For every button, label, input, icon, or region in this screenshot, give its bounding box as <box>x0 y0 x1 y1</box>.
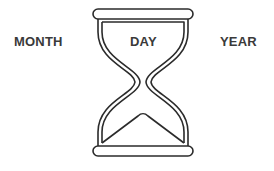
day-label: DAY <box>130 34 157 49</box>
year-label: YEAR <box>220 34 257 49</box>
hourglass-icon <box>0 0 274 171</box>
month-label: MONTH <box>14 34 63 49</box>
